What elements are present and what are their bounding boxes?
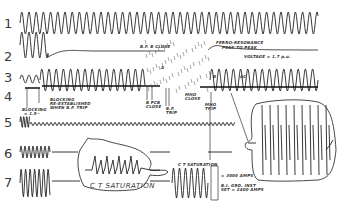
annotation-mark-c: AC — [239, 74, 246, 79]
annotation-blocking-time: = 1.5~ — [24, 111, 40, 116]
trace-label-6: 6 — [4, 146, 12, 161]
trace-label-7: 7 — [4, 175, 12, 190]
trace-4-line — [25, 86, 318, 88]
trace-5-waveform — [20, 117, 235, 127]
ct-saturation-label: C T SATURATION — [90, 182, 155, 190]
annotation-b-pcb-close: CLOSE — [146, 104, 161, 109]
annotation-mho-trip-2: TRIP — [205, 106, 216, 111]
annotation-bf-b-close: B.F. B CLOSE — [140, 44, 171, 49]
trace-label-1: 1 — [4, 16, 12, 31]
annotation-mho-close-2: CLOSE — [185, 96, 200, 101]
annotation-mark-a: A — [160, 65, 164, 70]
oscillogram: 1 2 3 4 5 6 7 C T SATURATION B.F. B CLOS… — [0, 0, 355, 220]
trace-1-waveform — [20, 12, 318, 34]
trace-label-5: 5 — [4, 115, 12, 130]
annotation-voltage: VOLTAGE = 1.7 p.u. — [244, 54, 291, 59]
annotation-bf-trip-2: TRIP — [166, 110, 177, 115]
annotation-ct-saturation-small: C T SATURATION — [178, 162, 218, 167]
annotation-set-amps: SET = 2400 AMPS — [221, 187, 264, 192]
annotation-mark-b: B — [213, 74, 216, 79]
trace-label-3: 3 — [4, 70, 12, 85]
magnified-fault-callout — [245, 100, 336, 181]
trace-label-4: 4 — [4, 89, 12, 104]
annotation-when-bf-trip: WHEN B.F. TRIP — [50, 105, 88, 110]
callout-leader-line — [231, 93, 248, 141]
annotation-peak-to-peak: PEAK TO PEAK — [222, 45, 258, 50]
annotation-3000-amps: = 3000 AMPS — [221, 173, 253, 178]
trace-label-2: 2 — [4, 49, 12, 64]
